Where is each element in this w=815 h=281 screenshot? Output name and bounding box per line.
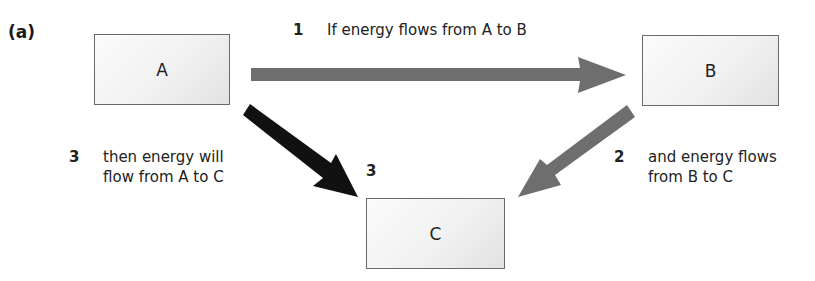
node-a: A [94, 34, 230, 105]
node-c-label: C [430, 224, 442, 244]
node-c: C [366, 198, 505, 269]
energy-flow-diagram: (a) A B C 1 If energy flows from A to B … [0, 0, 815, 281]
step-1-number: 1 [293, 20, 327, 40]
node-b: B [642, 35, 779, 106]
arrow-a-to-b [251, 57, 626, 93]
step-3-number: 3 [69, 147, 103, 187]
step-3-annotation: 3 then energy will flow from A to C [69, 147, 224, 187]
step-2-number: 2 [614, 147, 648, 187]
node-b-label: B [705, 61, 717, 81]
step-1-text: If energy flows from A to B [327, 20, 527, 40]
panel-label: (a) [8, 22, 35, 42]
step-3-text: then energy will flow from A to C [103, 147, 224, 187]
arrow-a-to-c [243, 104, 358, 197]
node-a-label: A [156, 60, 168, 80]
step-2-text: and energy flows from B to C [648, 147, 777, 187]
step-1-annotation: 1 If energy flows from A to B [293, 20, 527, 40]
arrow-a-to-c-marker: 3 [366, 162, 376, 180]
step-2-annotation: 2 and energy flows from B to C [614, 147, 777, 187]
